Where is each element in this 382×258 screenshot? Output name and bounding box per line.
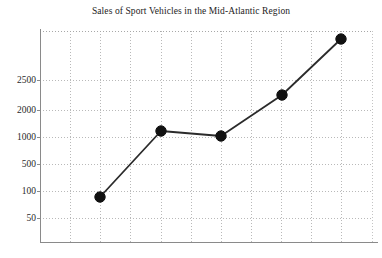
chart-container: Sales of Sport Vehicles in the Mid-Atlan…: [0, 0, 382, 258]
data-point-marker: [156, 126, 166, 136]
data-point-markers: [95, 34, 346, 202]
data-point-marker: [277, 90, 287, 100]
data-point-marker: [216, 131, 226, 141]
grid-lines: [40, 31, 373, 242]
data-point-marker: [95, 192, 105, 202]
chart-plot-area: [0, 0, 382, 258]
series-line-sales: [100, 39, 341, 197]
data-series-line: [100, 39, 341, 197]
data-point-marker: [336, 34, 346, 44]
